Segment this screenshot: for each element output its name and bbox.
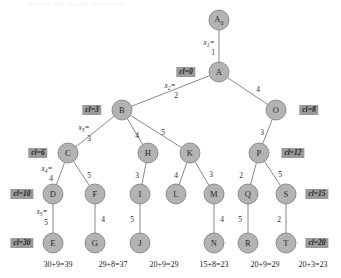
edge-weight-label: 4 (174, 171, 178, 180)
node-label-g: G (92, 238, 98, 248)
node-label-s: S (284, 189, 289, 199)
edge-weight-label: 3 (135, 171, 139, 180)
edge-weight-label: 3 (260, 128, 264, 137)
node-label-c: C (65, 148, 71, 158)
cost-badge: cl=15 (305, 189, 328, 199)
edge-weight-label: 5 (44, 218, 48, 227)
node-label-i: I (138, 189, 141, 199)
tree-edge (179, 162, 187, 184)
node-label-a: A (216, 67, 222, 77)
edge-weight-label: 2 (239, 171, 243, 180)
node-label-b: B (119, 105, 125, 115)
edge-weight-label: 5 (161, 128, 165, 137)
cost-badge: cl=6 (28, 148, 47, 158)
node-label-r: R (245, 238, 251, 248)
tree-graphics (0, 0, 341, 278)
edge-weight-label: 5 (238, 215, 242, 224)
node-label-o: O (273, 105, 279, 115)
node-label-l: L (173, 189, 178, 199)
node-label-n: N (211, 238, 217, 248)
tree-edge (142, 163, 146, 184)
node-label-t: T (283, 238, 288, 248)
node-label-q: Q (245, 189, 251, 199)
node-label-f: F (93, 189, 98, 199)
variable-label-x2: x2= (164, 81, 175, 92)
edge-weight-label: 1 (211, 48, 215, 57)
leaf-sum-label: 29+8=37 (98, 260, 127, 269)
leaf-sum-label: 30+9=39 (43, 260, 72, 269)
node-label-e: E (50, 238, 55, 248)
edge-weight-label: 4 (135, 131, 139, 140)
edge-weight-label: 2 (277, 215, 281, 224)
edge-weight-label: 5 (87, 171, 91, 180)
leaf-sum-label: 20+9=29 (250, 260, 279, 269)
edge-weight-label: 5 (278, 170, 282, 179)
tree-edge (195, 162, 209, 186)
node-label-k: K (187, 148, 193, 158)
node-label-h: H (145, 148, 151, 158)
figure-canvas: Branch and Bound search tree 12434534534… (0, 0, 341, 278)
node-label-j: J (138, 238, 142, 248)
edge-weight-label: 2 (174, 91, 178, 100)
leaf-sum-label: 20+9=29 (149, 260, 178, 269)
cost-badge: cl=12 (281, 148, 304, 158)
node-label-d: D (50, 189, 56, 199)
tree-edge (56, 162, 64, 184)
edge-weight-label: 5 (130, 215, 134, 224)
cost-badge: cl=8 (299, 105, 318, 115)
cost-badge: cl=3 (82, 105, 101, 115)
edge-weight-label: 4 (49, 174, 53, 183)
edge-weight-label: 4 (256, 85, 260, 94)
edge-weight-label: 3 (209, 170, 213, 179)
cost-badge: cl=0 (176, 67, 195, 77)
edge-weight-label: 4 (220, 215, 224, 224)
leaf-sum-label: 20+3=23 (298, 260, 327, 269)
node-label-a0: A0 (214, 14, 224, 26)
cost-badge: cl=10 (10, 189, 33, 199)
edge-weight-label: 3 (87, 134, 91, 143)
cost-badge: cl=20 (305, 238, 328, 248)
cost-badge: cl=30 (10, 238, 33, 248)
variable-label-x3: x3= (78, 123, 89, 134)
tree-edge (251, 163, 257, 185)
edge-weight-label: 4 (101, 215, 105, 224)
node-label-p: P (257, 148, 262, 158)
node-label-m: M (210, 189, 218, 199)
variable-label-x1: x1= (203, 38, 214, 49)
leaf-sum-label: 15+8=23 (199, 260, 228, 269)
variable-label-x5: x5= (36, 207, 47, 218)
tree-edge (227, 78, 267, 105)
variable-label-x4: x4= (41, 164, 52, 175)
